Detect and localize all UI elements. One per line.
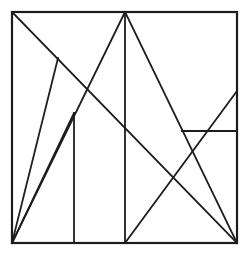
diagonal-apex-to-bottomright: [125, 12, 237, 243]
diagonal-bottommid-to-rightedge: [125, 91, 237, 243]
drawing-canvas: Abstract line drawing Black line-art com…: [0, 0, 250, 260]
diagonal-innertop-to-bottomleft: [12, 113, 74, 243]
line-drawing-figure: Abstract line drawing Black line-art com…: [0, 0, 250, 260]
segment-group: [12, 12, 237, 243]
diagonal-leftbranch-to-bottomleft: [12, 58, 58, 243]
